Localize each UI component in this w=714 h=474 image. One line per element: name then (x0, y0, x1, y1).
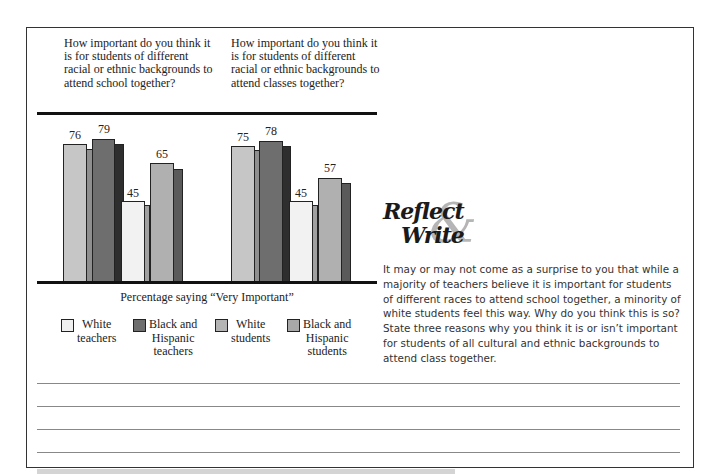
bar-value-label: 65 (147, 147, 177, 162)
logo-write-word: Write (401, 222, 464, 248)
writing-line-1[interactable] (37, 383, 680, 384)
question-school-together: How important do you think it is for stu… (64, 37, 214, 90)
reflect-write-logo: & Reflect Write (383, 198, 503, 258)
bar-value-label: 76 (60, 128, 90, 143)
legend-label: Black and (149, 318, 197, 332)
legend-item-white-teachers: White teachers (61, 318, 116, 345)
legend-label: Hispanic (149, 332, 197, 346)
bar-black-hispanic-teachers (92, 139, 115, 282)
reflect-prompt: It may or may not come as a surprise to … (383, 262, 683, 366)
bar-value-label: 75 (228, 130, 258, 145)
legend-swatch (61, 319, 74, 332)
legend-label: Black and (303, 318, 351, 332)
legend-label: White (231, 318, 270, 332)
question-classes-together: How important do you think it is for stu… (231, 37, 381, 90)
bar-black-hispanic-teachers (259, 141, 283, 282)
legend-swatch (133, 319, 146, 332)
chart-baseline (37, 281, 377, 284)
legend-item-black-hispanic-students: Black and Hispanic students (287, 318, 351, 359)
bar-white-teachers (63, 144, 87, 282)
bar-black-hispanic-students (150, 163, 174, 282)
axis-caption: Percentage saying “Very Important” (37, 290, 377, 305)
logo-reflect-word: Reflect (383, 198, 464, 224)
legend-label: White (77, 318, 116, 332)
bar-value-label: 79 (89, 122, 119, 137)
bar-white-students (121, 201, 145, 282)
bar-black-hispanic-students (318, 178, 342, 282)
bar-white-students (289, 201, 313, 282)
frame-shadow (37, 469, 455, 474)
bar-value-label: 57 (315, 161, 345, 176)
legend-item-white-students: White students (215, 318, 270, 345)
legend-swatch (215, 319, 228, 332)
writing-line-3[interactable] (37, 429, 680, 430)
writing-line-4[interactable] (37, 452, 680, 453)
chart-top-rule (37, 112, 377, 115)
bar-side (341, 183, 351, 282)
writing-line-2[interactable] (37, 406, 680, 407)
legend-label: teachers (77, 332, 116, 346)
legend-label: students (303, 345, 351, 359)
legend-label: Hispanic (303, 332, 351, 346)
bar-value-label: 78 (256, 124, 286, 139)
legend-item-black-hispanic-teachers: Black and Hispanic teachers (133, 318, 197, 359)
bar-side (173, 169, 183, 282)
legend-label: teachers (149, 345, 197, 359)
bar-white-teachers (231, 146, 255, 282)
bar-value-label: 45 (286, 186, 316, 201)
legend-swatch (287, 319, 300, 332)
legend-label: students (231, 332, 270, 346)
bar-value-label: 45 (118, 186, 148, 201)
